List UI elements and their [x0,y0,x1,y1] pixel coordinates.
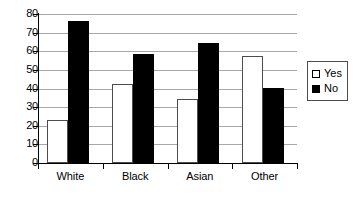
legend-label-yes: Yes [324,68,342,79]
x-axis-label-asian: Asian [168,170,233,182]
y-axis-ticks: 01020304050607080 [0,0,38,198]
x-tick-mark-4 [297,164,298,169]
bar-asian-yes [177,99,198,163]
chart-legend: YesNo [307,61,348,101]
x-tick-mark-3 [232,164,233,169]
x-tick-mark-2 [168,164,169,169]
y-tick-mark-10 [33,144,38,145]
legend-swatch-yes-icon [312,70,320,78]
y-tick-mark-30 [33,107,38,108]
x-axis-label-black: Black [103,170,168,182]
y-tick-mark-60 [33,51,38,52]
bar-other-yes [242,56,263,163]
y-tick-mark-70 [33,33,38,34]
bar-white-no [68,21,89,163]
bar-chart: 01020304050607080 WhiteBlackAsianOther Y… [0,0,360,198]
bar-other-no [263,88,284,163]
y-axis-line [38,13,39,164]
legend-item-no: No [312,81,342,96]
legend-label-no: No [324,83,338,94]
x-axis-label-other: Other [232,170,297,182]
legend-item-yes: Yes [312,66,342,81]
gridline-80 [38,14,297,15]
y-tick-mark-80 [33,14,38,15]
y-tick-mark-40 [33,89,38,90]
bar-asian-no [198,43,219,163]
bar-white-yes [47,120,68,163]
x-tick-mark-1 [103,164,104,169]
y-tick-mark-50 [33,70,38,71]
bar-black-yes [112,84,133,163]
x-axis-label-white: White [38,170,103,182]
x-tick-mark-0 [38,164,39,169]
legend-swatch-no-icon [312,85,320,93]
plot-area [38,14,297,163]
bar-black-no [133,54,154,163]
y-tick-mark-20 [33,126,38,127]
